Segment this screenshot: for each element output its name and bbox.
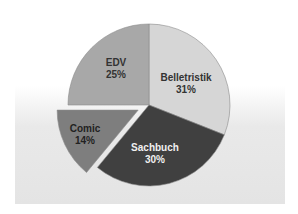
slice-value-comic: 14%: [75, 135, 95, 146]
slice-value-belletristik: 31%: [176, 84, 196, 95]
slice-label-comic: Comic: [70, 123, 101, 134]
slice-label-sachbuch: Sachbuch: [131, 142, 179, 153]
slice-value-sachbuch: 30%: [145, 154, 165, 165]
slice-label-belletristik: Belletristik: [160, 72, 212, 83]
pie-chart: Belletristik 31% Sachbuch 30% Comic 14% …: [0, 0, 298, 214]
slice-value-edv: 25%: [106, 69, 126, 80]
slice-label-edv: EDV: [106, 57, 127, 68]
